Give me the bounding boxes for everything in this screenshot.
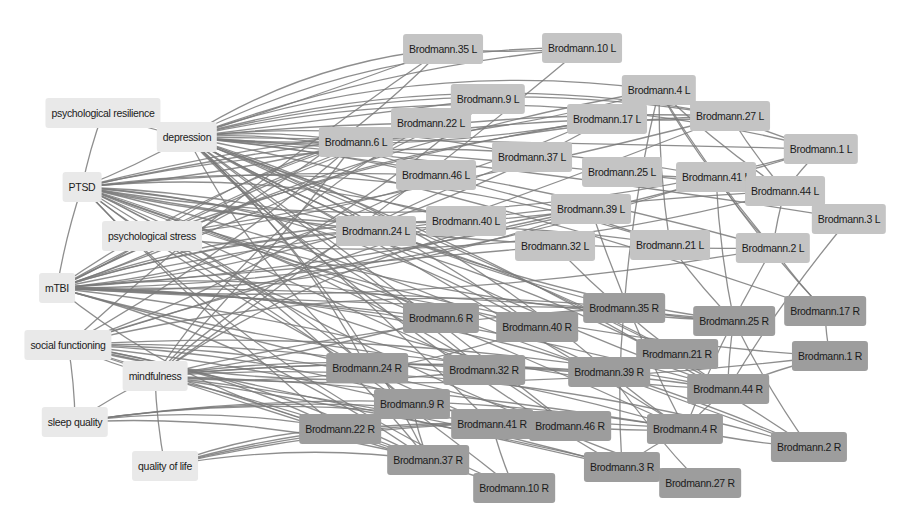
graph-node-quality-of-life[interactable]: quality of life — [132, 451, 198, 481]
graph-node-brodmann-21-l[interactable]: Brodmann.21 L — [630, 230, 710, 260]
graph-node-brodmann-40-r[interactable]: Brodmann.40 R — [496, 312, 578, 342]
graph-node-brodmann-39-r[interactable]: Brodmann.39 R — [568, 357, 650, 387]
graph-node-brodmann-10-r[interactable]: Brodmann.10 R — [473, 473, 555, 503]
graph-node-brodmann-41-r[interactable]: Brodmann.41 R — [451, 409, 533, 439]
graph-node-brodmann-41-l[interactable]: Brodmann.41 L — [676, 162, 756, 192]
graph-node-brodmann-44-l[interactable]: Brodmann.44 L — [745, 176, 825, 206]
graph-node-brodmann-22-r[interactable]: Brodmann.22 R — [299, 414, 381, 444]
graph-node-brodmann-3-l[interactable]: Brodmann.3 L — [812, 204, 886, 234]
graph-node-psychological-stress[interactable]: psychological stress — [102, 221, 202, 251]
graph-node-brodmann-2-l[interactable]: Brodmann.2 L — [736, 233, 810, 263]
graph-node-brodmann-6-r[interactable]: Brodmann.6 R — [403, 303, 479, 333]
graph-node-brodmann-1-r[interactable]: Brodmann.1 R — [792, 341, 868, 371]
graph-node-brodmann-37-l[interactable]: Brodmann.37 L — [492, 142, 572, 172]
graph-node-brodmann-35-r[interactable]: Brodmann.35 R — [583, 293, 665, 323]
graph-node-brodmann-22-l[interactable]: Brodmann.22 L — [391, 108, 471, 138]
graph-node-brodmann-4-r[interactable]: Brodmann.4 R — [647, 414, 723, 444]
graph-node-brodmann-37-r[interactable]: Brodmann.37 R — [387, 445, 469, 475]
graph-node-brodmann-40-l[interactable]: Brodmann.40 L — [426, 206, 506, 236]
graph-node-brodmann-32-l[interactable]: Brodmann.32 L — [515, 231, 595, 261]
graph-node-brodmann-3-r[interactable]: Brodmann.3 R — [584, 452, 660, 482]
graph-node-brodmann-39-l[interactable]: Brodmann.39 L — [551, 194, 631, 224]
graph-node-brodmann-17-r[interactable]: Brodmann.17 R — [784, 296, 866, 326]
graph-node-brodmann-4-l[interactable]: Brodmann.4 L — [622, 75, 696, 105]
graph-node-brodmann-1-l[interactable]: Brodmann.1 L — [784, 134, 858, 164]
graph-node-mindfulness[interactable]: mindfulness — [123, 361, 188, 391]
graph-node-brodmann-35-l[interactable]: Brodmann.35 L — [403, 34, 483, 64]
graph-node-brodmann-44-r[interactable]: Brodmann.44 R — [687, 374, 769, 404]
graph-node-brodmann-6-l[interactable]: Brodmann.6 L — [319, 127, 393, 157]
graph-node-brodmann-27-r[interactable]: Brodmann.27 R — [659, 468, 741, 498]
graph-node-brodmann-32-r[interactable]: Brodmann.32 R — [443, 355, 525, 385]
graph-node-sleep-quality[interactable]: sleep quality — [42, 407, 108, 437]
graph-node-brodmann-24-r[interactable]: Brodmann.24 R — [326, 353, 408, 383]
graph-node-brodmann-46-l[interactable]: Brodmann.46 L — [396, 160, 476, 190]
graph-node-brodmann-2-r[interactable]: Brodmann.2 R — [771, 432, 847, 462]
graph-node-psychological-resilience[interactable]: psychological resilience — [45, 98, 160, 128]
graph-node-brodmann-10-l[interactable]: Brodmann.10 L — [542, 33, 622, 63]
graph-node-mtbi[interactable]: mTBI — [39, 273, 75, 303]
graph-node-brodmann-17-l[interactable]: Brodmann.17 L — [567, 104, 647, 134]
graph-node-brodmann-25-r[interactable]: Brodmann.25 R — [693, 306, 775, 336]
graph-node-brodmann-46-r[interactable]: Brodmann.46 R — [529, 411, 611, 441]
graph-node-brodmann-24-l[interactable]: Brodmann.24 L — [336, 216, 416, 246]
graph-node-brodmann-25-l[interactable]: Brodmann.25 L — [582, 157, 662, 187]
graph-node-brodmann-9-r[interactable]: Brodmann.9 R — [374, 389, 450, 419]
graph-node-ptsd[interactable]: PTSD — [63, 172, 102, 202]
graph-node-social-functioning[interactable]: social functioning — [24, 330, 111, 360]
graph-node-brodmann-27-l[interactable]: Brodmann.27 L — [690, 101, 770, 131]
graph-node-depression[interactable]: depression — [157, 122, 217, 152]
